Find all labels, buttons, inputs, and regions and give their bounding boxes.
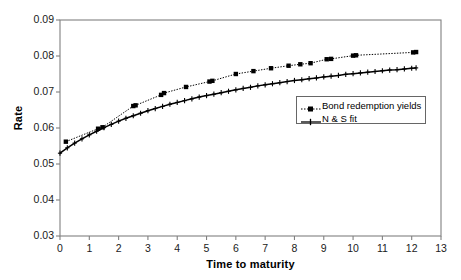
x-tick-label: 9 — [314, 242, 334, 254]
data-point-marker — [248, 85, 252, 90]
data-point-marker — [395, 67, 399, 72]
data-point-marker — [336, 73, 340, 78]
data-point-marker — [226, 89, 230, 94]
data-point-marker — [388, 67, 392, 72]
x-tick-label: 13 — [431, 242, 451, 254]
data-point-marker — [270, 81, 274, 86]
data-point-marker — [414, 50, 418, 54]
data-point-marker — [175, 100, 179, 105]
x-tick-label: 11 — [372, 242, 392, 254]
data-point-marker — [285, 79, 289, 84]
cross-marker-icon — [300, 113, 322, 123]
data-point-marker — [219, 90, 223, 95]
x-tick-label: 5 — [197, 242, 217, 254]
data-point-marker — [351, 71, 355, 76]
data-point-marker — [307, 76, 311, 81]
data-point-marker — [414, 65, 418, 70]
data-point-marker — [182, 98, 186, 103]
data-point-marker — [263, 82, 267, 87]
data-point-marker — [117, 119, 121, 124]
data-point-marker — [184, 85, 188, 89]
data-point-marker — [292, 78, 296, 83]
chart-legend: Bond redemption yields N & S fit — [296, 96, 426, 124]
data-point-marker — [160, 104, 164, 109]
data-point-marker — [380, 68, 384, 73]
data-point-marker — [329, 74, 333, 79]
data-point-marker — [80, 136, 84, 141]
data-point-marker — [139, 111, 143, 116]
data-point-marker — [210, 79, 214, 83]
data-point-marker — [278, 80, 282, 85]
data-point-marker — [329, 57, 333, 61]
data-point-marker — [190, 96, 194, 101]
chart-plot-area — [0, 0, 461, 280]
data-point-marker — [366, 70, 370, 75]
x-tick-label: 1 — [79, 242, 99, 254]
data-point-marker — [64, 139, 68, 143]
x-tick-label: 2 — [109, 242, 129, 254]
x-tick-label: 0 — [50, 242, 70, 254]
data-point-marker — [300, 77, 304, 82]
y-tick-label: 0.03 — [8, 229, 54, 241]
x-tick-label: 6 — [226, 242, 246, 254]
data-point-marker — [251, 69, 255, 73]
data-point-marker — [212, 92, 216, 97]
data-point-marker — [286, 64, 290, 68]
legend-label: Bond redemption yields — [322, 100, 421, 111]
x-tick-label: 8 — [284, 242, 304, 254]
data-point-marker — [124, 116, 128, 121]
data-point-marker — [298, 62, 302, 66]
y-tick-label: 0.09 — [8, 13, 54, 25]
data-point-marker — [168, 102, 172, 107]
data-point-marker — [354, 53, 358, 57]
data-point-marker — [314, 75, 318, 80]
data-point-marker — [325, 57, 329, 61]
y-axis-title: Rate — [12, 88, 24, 148]
data-point-marker — [153, 106, 157, 111]
data-point-marker — [358, 70, 362, 75]
data-point-marker — [133, 103, 137, 107]
square-marker-icon — [300, 100, 322, 110]
legend-item-bond-redemption-yields: Bond redemption yields — [300, 99, 422, 111]
y-tick-label: 0.08 — [8, 49, 54, 61]
data-point-marker — [197, 94, 201, 99]
data-point-marker — [162, 91, 166, 95]
data-point-marker — [131, 113, 135, 118]
x-axis-title: Time to maturity — [60, 258, 441, 270]
data-point-marker — [344, 72, 348, 77]
y-tick-label: 0.07 — [8, 85, 54, 97]
x-tick-label: 12 — [402, 242, 422, 254]
x-tick-label: 10 — [343, 242, 363, 254]
x-tick-label: 7 — [255, 242, 275, 254]
data-point-marker — [234, 72, 238, 76]
data-point-marker — [308, 61, 312, 65]
data-point-marker — [410, 66, 414, 71]
legend-item-n-and-s-fit: N & S fit — [300, 112, 422, 124]
data-point-marker — [373, 69, 377, 74]
chart-figure: Rate Time to maturity 0.030.040.050.060.… — [0, 0, 461, 280]
data-point-marker — [204, 93, 208, 98]
data-point-marker — [322, 74, 326, 79]
data-point-marker — [234, 87, 238, 92]
legend-label: N & S fit — [322, 113, 357, 124]
data-point-marker — [241, 86, 245, 91]
x-tick-label: 3 — [138, 242, 158, 254]
y-tick-label: 0.06 — [8, 121, 54, 133]
y-tick-label: 0.05 — [8, 157, 54, 169]
data-point-marker — [146, 108, 150, 113]
x-tick-label: 4 — [167, 242, 187, 254]
y-tick-label: 0.04 — [8, 193, 54, 205]
data-point-marker — [269, 66, 273, 70]
data-point-marker — [256, 83, 260, 88]
data-point-marker — [402, 66, 406, 71]
